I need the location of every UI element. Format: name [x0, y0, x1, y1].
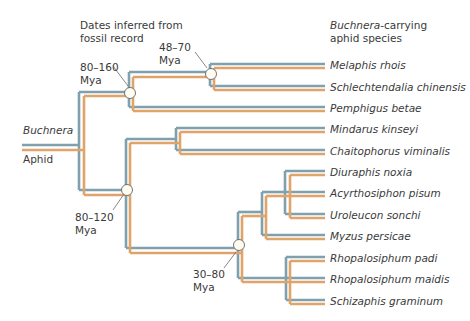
dates-header-line1: Dates inferred from	[80, 19, 183, 32]
date-nodes	[122, 69, 245, 251]
species-label: Uroleucon sonchi	[330, 209, 421, 222]
date-label-n1: 80–160 Mya	[80, 61, 119, 87]
species-label: Myzus persicae	[330, 230, 411, 243]
date-unit: Mya	[159, 54, 191, 67]
date-label-n3: 80–120 Mya	[75, 211, 114, 237]
species-label: Diuraphis noxia	[330, 166, 412, 179]
date-unit: Mya	[193, 281, 225, 294]
species-label: Rhopalosiphum padi	[330, 252, 437, 265]
species-header: Buchnera-carrying aphid species	[330, 19, 427, 45]
species-label: Rhopalosiphum maidis	[330, 273, 449, 286]
species-label: Melaphis rhois	[330, 59, 406, 72]
date-leader-lines	[113, 52, 236, 268]
species-label: Schizaphis graminum	[330, 295, 443, 308]
date-unit: Mya	[75, 224, 114, 237]
node-circle-n4	[234, 240, 245, 251]
date-label-n2: 48–70 Mya	[159, 41, 191, 67]
species-label: Chaitophorus viminalis	[330, 145, 450, 158]
species-label: Schlechtendalia chinensis	[330, 81, 466, 94]
legend-buchnera: Buchnera	[23, 124, 73, 137]
species-header-rest: -carrying	[380, 19, 427, 31]
buchnera-symbiont-tree	[22, 68, 325, 304]
species-label: Pemphigus betae	[330, 102, 422, 115]
node-circle-n3	[122, 185, 133, 196]
species-header-italic: Buchnera	[330, 19, 380, 31]
date-range: 80–160	[80, 61, 119, 74]
node-circle-n2	[206, 69, 217, 80]
species-label: Mindarus kinseyi	[330, 123, 418, 136]
species-header-line2: aphid species	[330, 32, 427, 45]
cophylogeny-diagram: Dates inferred from fossil record Buchne…	[0, 0, 470, 321]
aphid-host-tree	[22, 64, 325, 300]
species-label: Acyrthosiphon pisum	[330, 187, 441, 200]
date-range: 80–120	[75, 211, 114, 224]
date-unit: Mya	[80, 74, 119, 87]
legend-aphid: Aphid	[23, 153, 53, 166]
date-label-n4: 30–80 Mya	[193, 268, 225, 294]
date-range: 30–80	[193, 268, 225, 281]
date-range: 48–70	[159, 41, 191, 54]
node-circle-n1	[125, 88, 136, 99]
